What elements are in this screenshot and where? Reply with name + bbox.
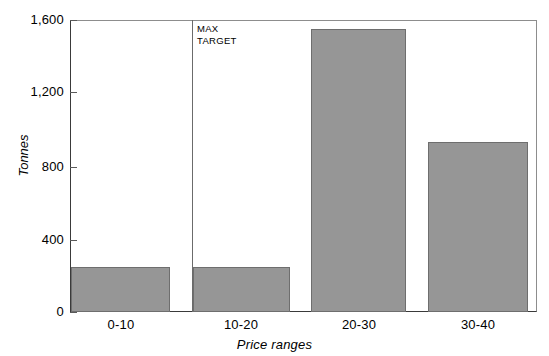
y-tick-label-800: 800 (0, 160, 64, 173)
max-target-label-line1: MAX (197, 23, 219, 34)
x-tick-label-20-30: 20-30 (313, 318, 405, 332)
y-tick-mark-0 (70, 312, 77, 313)
bar-0-10[interactable] (71, 267, 170, 312)
y-tick-mark-1200 (70, 92, 77, 93)
y-axis-title: Tonnes (16, 116, 31, 196)
y-tick-mark-400 (70, 240, 77, 241)
y-tick-label-1200: 1,200 (0, 85, 64, 98)
y-tick-label-text: 1,200 (2, 85, 64, 98)
y-tick-mark-800 (70, 167, 77, 168)
y-tick-label-400: 400 (0, 233, 64, 246)
y-tick-mark-1600 (70, 20, 77, 21)
x-tick-label-10-20: 10-20 (195, 318, 287, 332)
y-tick-label-0: 0 (0, 305, 64, 318)
y-tick-label-text: 400 (2, 233, 64, 246)
bar-10-20[interactable] (193, 267, 290, 312)
y-tick-label-text: 1,600 (2, 13, 64, 26)
bar-30-40[interactable] (428, 142, 528, 312)
bar-chart: 1,600 1,200 800 400 0 Tonnes MAX TARGET … (0, 0, 549, 356)
max-target-label-line2: TARGET (197, 35, 237, 46)
max-target-line (192, 20, 193, 312)
x-tick-label-0-10: 0-10 (75, 318, 167, 332)
y-tick-label-1600: 1,600 (0, 13, 64, 26)
x-axis-title: Price ranges (0, 337, 549, 352)
bar-20-30[interactable] (311, 29, 406, 312)
x-tick-label-30-40: 30-40 (432, 318, 524, 332)
y-tick-label-text: 800 (2, 160, 64, 173)
y-tick-label-text: 0 (2, 305, 64, 318)
